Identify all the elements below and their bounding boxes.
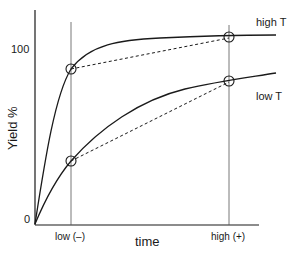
series-label-high-t: high T	[256, 17, 286, 28]
y-tick-0: 0	[24, 214, 30, 225]
y-axis-label: Yield %	[6, 106, 19, 150]
x-tick-high: high (+)	[211, 232, 245, 242]
y-tick-100: 100	[11, 44, 29, 55]
x-axis-label: time	[135, 235, 160, 248]
dashed-connector-high	[71, 38, 229, 69]
dashed-connector-low	[71, 82, 229, 161]
x-tick-low: low (–)	[55, 232, 85, 242]
series-label-low-t: low T	[256, 91, 282, 102]
yield-chart	[0, 0, 291, 254]
